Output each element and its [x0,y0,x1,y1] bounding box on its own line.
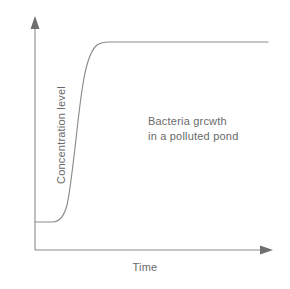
x-axis-arrowhead-icon [260,246,273,255]
chart-annotation: Bacteria grcwth in a polluted pond [148,114,238,144]
chart-plot-area [0,0,290,289]
bacteria-growth-chart: Concentration level Time Bacteria grcwth… [0,0,290,289]
x-axis-label: Time [0,261,290,273]
annotation-line-2: in a polluted pond [148,129,238,144]
y-axis-arrowhead-icon [31,16,40,29]
y-axis-label: Concentration level [55,86,67,184]
annotation-line-1: Bacteria grcwth [148,114,238,129]
